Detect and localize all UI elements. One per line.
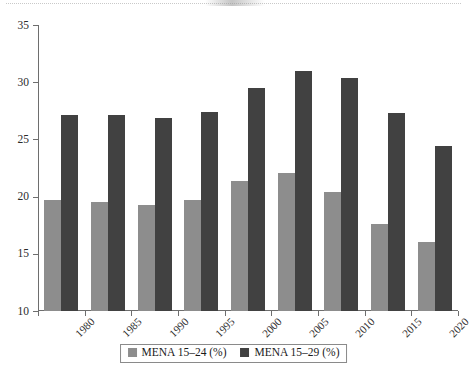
x-axis-tick-label: 1980 [74,316,97,339]
x-axis-tick-label: 2020 [447,316,470,339]
bar-group [91,25,125,311]
bar [201,112,218,311]
x-axis-tick [271,311,272,316]
y-axis-tick: 30 [33,82,38,83]
x-axis-tick [178,311,179,316]
legend-item-label: MENA 15–29 (%) [255,347,340,359]
x-axis-tick [85,311,86,316]
y-axis-tick: 20 [33,197,38,198]
x-axis-tick-label: 1985 [120,316,143,339]
bar [138,205,155,311]
bar [278,173,295,311]
y-axis-tick-label: 30 [18,77,30,89]
x-axis-tick-label: 2000 [260,316,283,339]
bar-group [278,25,312,311]
bar [44,200,61,311]
bar-group [324,25,358,311]
y-axis-tick-label: 35 [18,20,30,32]
x-axis-tick [131,311,132,316]
bar [371,224,388,311]
bar [418,242,435,311]
bar-group [231,25,265,311]
bar [388,113,405,311]
legend-item-label: MENA 15–24 (%) [142,347,227,359]
y-axis-tick: 15 [33,254,38,255]
bar [341,78,358,311]
x-axis-tick [318,311,319,316]
y-axis-tick-label: 15 [18,248,30,259]
y-axis-tick: 25 [33,139,38,140]
bar [435,146,452,311]
x-axis-tick-label: 2005 [307,316,330,339]
x-axis-tick [225,311,226,316]
y-axis-tick-label: 25 [18,134,30,146]
bar [231,181,248,311]
bar [248,88,265,311]
x-axis-tick-label: 2015 [400,316,423,339]
bar [295,71,312,311]
bar [61,115,78,311]
bar-group [184,25,218,311]
y-axis-tick-label: 10 [18,306,30,318]
legend-swatch-mena-15-24 [128,348,137,357]
bar [155,118,172,311]
bar-group [138,25,172,311]
x-axis-tick [458,311,459,316]
plot-area: 101520253035 [38,25,458,311]
legend-swatch-mena-15-29 [241,348,250,357]
bar [108,115,125,311]
x-axis-tick-label: 2010 [354,316,377,339]
y-axis-tick: 35 [33,25,38,26]
y-axis-line [38,25,39,311]
x-axis-tick [365,311,366,316]
legend-item: MENA 15–29 (%) [241,347,340,359]
bar-group [418,25,452,311]
bar [324,192,341,311]
x-axis-tick-label: 1990 [167,316,190,339]
x-axis-tick [411,311,412,316]
bar [184,200,201,311]
bar-group [371,25,405,311]
page-top-smudge [205,0,265,6]
x-axis-tick-label: 1995 [214,316,237,339]
y-axis-tick-label: 20 [18,191,30,203]
legend-item: MENA 15–24 (%) [128,347,227,359]
bar [91,202,108,311]
chart-legend: MENA 15–24 (%)MENA 15–29 (%) [120,344,348,363]
x-axis-tick [38,311,39,316]
bar-group [44,25,78,311]
